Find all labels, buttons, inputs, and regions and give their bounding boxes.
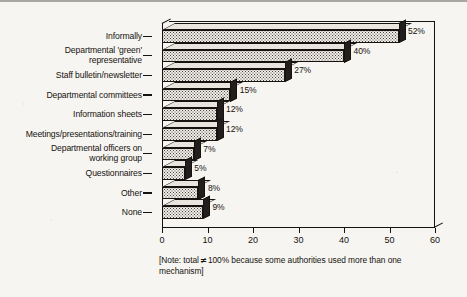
bar-top-face	[162, 62, 298, 69]
category-tick-7	[143, 153, 152, 154]
x-tick-label-50: 50	[385, 235, 395, 245]
bar-side-face	[185, 157, 192, 180]
category-label-2: Departmental 'green' representative	[65, 45, 142, 65]
bar-side-face	[203, 196, 210, 219]
x-tick-label-0: 0	[160, 235, 165, 245]
category-label-9: Other	[121, 188, 142, 198]
bar-value-label: 52%	[408, 27, 425, 36]
x-tick-20	[253, 228, 254, 233]
bar-value-label: 40%	[354, 47, 371, 56]
x-tick-label-30: 30	[294, 235, 304, 245]
bar-value-label: 12%	[226, 105, 243, 114]
bar-side-face	[285, 59, 292, 82]
bar-side-face	[230, 78, 237, 101]
bar-value-label: 7%	[203, 145, 215, 154]
bar-front-face	[162, 128, 217, 141]
bar-side-face	[344, 39, 351, 62]
bar-value-label: 9%	[212, 203, 224, 212]
x-tick-40	[344, 228, 345, 233]
footnote-prefix: [Note: total	[159, 255, 199, 265]
bar-series: 52%40%27%15%12%12%7%5%8%9%	[162, 16, 442, 228]
x-tick-50	[390, 228, 391, 233]
not-equal-icon: ≠	[199, 255, 208, 265]
category-label-8: Questionnaires	[86, 168, 142, 178]
x-tick-label-20: 20	[248, 235, 258, 245]
bar-front-face	[162, 50, 344, 63]
bar-top-face	[162, 23, 412, 30]
x-tick-label-10: 10	[203, 235, 213, 245]
chart-footnote: [Note: total≠100% because some authoriti…	[159, 255, 409, 276]
x-tick-label-40: 40	[339, 235, 349, 245]
category-label-7: Departmental officers on working group	[51, 143, 142, 163]
bar-side-face	[198, 176, 205, 199]
category-label-6: Meetings/presentations/training	[26, 129, 142, 139]
bar-top-face	[162, 43, 357, 50]
category-tick-6	[143, 134, 152, 135]
bar-value-label: 27%	[294, 66, 311, 75]
x-tick-0	[162, 228, 163, 233]
bar-front-face	[162, 69, 285, 82]
category-tick-2	[143, 55, 152, 56]
category-axis: InformallyDepartmental 'green' represent…	[0, 0, 162, 297]
x-tick-10	[208, 228, 209, 233]
bar-front-face	[162, 108, 217, 121]
category-tick-4	[143, 94, 152, 95]
bar-value-label: 8%	[208, 184, 220, 193]
category-label-3: Staff bulletin/newsletter	[56, 70, 142, 80]
category-tick-5	[143, 114, 152, 115]
category-tick-10	[143, 212, 152, 213]
bar-front-face	[162, 206, 203, 219]
bar-side-face	[217, 117, 224, 140]
category-label-10: None	[122, 207, 142, 217]
bar-10: 9%	[162, 206, 210, 226]
bar-value-label: 15%	[240, 86, 257, 95]
bar-value-label: 12%	[226, 125, 243, 134]
category-tick-3	[143, 75, 152, 76]
x-tick-30	[299, 228, 300, 233]
category-label-1: Informally	[106, 31, 142, 41]
x-tick-label-60: 60	[430, 235, 440, 245]
bar-front-face	[162, 187, 198, 200]
category-tick-9	[143, 192, 152, 193]
bar-front-face	[162, 167, 185, 180]
bar-side-face	[399, 19, 406, 42]
category-label-5: Information sheets	[73, 109, 142, 119]
bar-value-label: 5%	[194, 164, 206, 173]
category-label-4: Departmental committees	[46, 90, 142, 100]
category-tick-8	[143, 173, 152, 174]
x-tick-60	[435, 228, 436, 233]
x-axis: 0102030405060	[162, 228, 442, 254]
chart-page: InformallyDepartmental 'green' represent…	[0, 0, 467, 297]
category-tick-1	[143, 36, 152, 37]
bar-side-face	[194, 137, 201, 160]
bar-front-face	[162, 30, 399, 43]
